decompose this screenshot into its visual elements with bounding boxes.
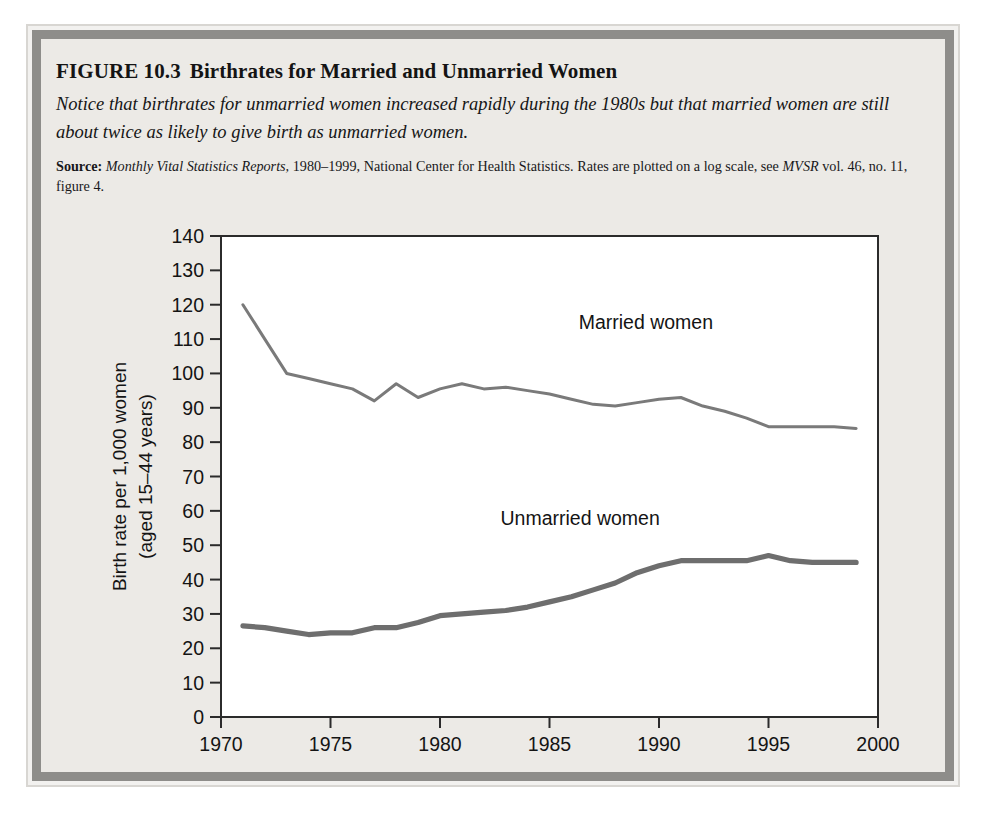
annotation-label: Married women [579,311,713,333]
x-tick-label: 1975 [309,733,353,755]
y-tick-label: 140 [171,225,204,247]
y-tick-label: 70 [182,466,204,488]
y-axis-title-line1: Birth rate per 1,000 women [109,362,130,591]
y-tick-label: 60 [182,500,204,522]
figure-number: FIGURE 10.3 [56,59,181,83]
birthrates-line-chart: 0102030405060708090100110120130140 19701… [56,218,926,763]
x-tick-label: 1980 [418,733,462,755]
x-tick-label: 2000 [856,733,900,755]
y-tick-label: 120 [171,294,204,316]
figure-root: FIGURE 10.3Birthrates for Married and Un… [0,0,990,835]
x-tick-label: 1970 [199,733,243,755]
figure-caption-block: FIGURE 10.3Birthrates for Married and Un… [56,60,936,196]
y-axis-tick-labels: 0102030405060708090100110120130140 [171,225,221,728]
y-axis-title: Birth rate per 1,000 women(aged 15–44 ye… [109,362,156,591]
y-tick-label: 80 [182,431,204,453]
x-axis-tick-labels: 1970197519801985199019952000 [199,717,900,755]
y-axis-title-group: Birth rate per 1,000 women(aged 15–44 ye… [109,362,156,591]
y-tick-label: 30 [182,603,204,625]
x-tick-label: 1995 [747,733,791,755]
y-tick-label: 100 [171,362,204,384]
x-tick-label: 1985 [528,733,572,755]
y-tick-label: 130 [171,259,204,281]
y-tick-label: 0 [193,706,204,728]
annotation-label: Unmarried women [501,507,660,529]
chart-area: 0102030405060708090100110120130140 19701… [56,218,926,763]
y-tick-label: 50 [182,534,204,556]
y-axis-title-line2: (aged 15–44 years) [135,394,156,559]
source-text-1: 1980–1999, National Center for Health St… [289,158,782,174]
y-tick-label: 110 [173,328,204,350]
y-tick-label: 90 [182,397,204,419]
x-tick-label: 1990 [637,733,681,755]
y-tick-label: 10 [182,672,204,694]
source-abbrev: MVSR [782,158,818,174]
plot-background [221,236,878,717]
figure-title-text: Birthrates for Married and Unmarried Wom… [190,59,617,83]
source-publication: Monthly Vital Statistics Reports, [106,158,289,174]
figure-subtitle: Notice that birthrates for unmarried wom… [56,90,911,146]
y-tick-label: 40 [182,569,204,591]
source-label: Source: [56,158,102,174]
y-tick-label: 20 [182,637,204,659]
figure-title: FIGURE 10.3Birthrates for Married and Un… [56,60,936,83]
figure-source: Source: Monthly Vital Statistics Reports… [56,157,928,196]
